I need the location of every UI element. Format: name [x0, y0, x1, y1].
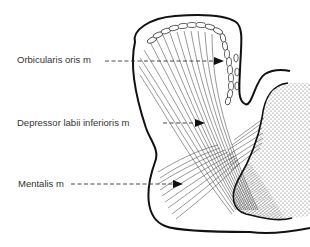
orbicularis-oris-fiber-bundles	[146, 22, 239, 105]
leader-orbicularis	[105, 57, 224, 65]
leader-depressor	[163, 119, 205, 127]
arrowhead-icon	[173, 180, 183, 188]
leader-mentalis	[71, 180, 183, 188]
muscle-fibers	[139, 31, 264, 219]
label-depressor-labii-inferioris: Depressor labii inferioris m	[17, 118, 129, 128]
label-mentalis: Mentalis m	[18, 179, 64, 189]
arrowhead-icon	[214, 57, 224, 65]
arrowhead-icon	[195, 119, 205, 127]
label-orbicularis-oris: Orbicularis oris m	[17, 55, 91, 65]
